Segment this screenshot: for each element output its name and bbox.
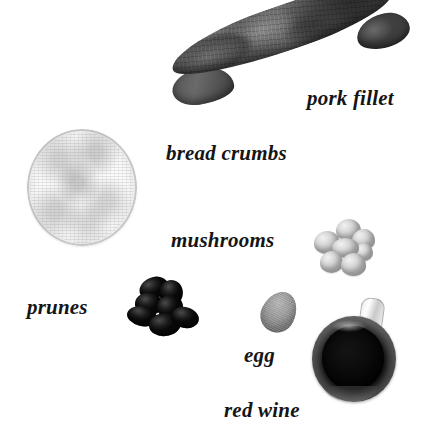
wine-liquid [322, 326, 384, 390]
label-bread-crumbs: bread crumbs [166, 143, 287, 164]
mushrooms-photo [310, 219, 376, 277]
ingredients-plate: pork fillet bread crumbs mushrooms prune… [0, 0, 431, 426]
wine-glass-highlight [332, 320, 366, 332]
wine-glass-foot [324, 386, 378, 402]
label-egg: egg [244, 345, 275, 366]
label-prunes: prunes [27, 297, 88, 318]
bread-crumbs-texture [30, 132, 134, 243]
wine-glass-photo [310, 298, 398, 404]
label-mushrooms: mushrooms [171, 230, 274, 251]
bread-crumbs-photo [27, 129, 137, 246]
prunes-photo [125, 277, 201, 341]
egg-photo [255, 286, 304, 339]
mushroom-cap [320, 251, 343, 273]
label-red-wine: red wine [224, 400, 300, 421]
mushroom-cap [341, 253, 366, 276]
label-pork-fillet: pork fillet [307, 88, 394, 109]
egg-texture [255, 286, 304, 339]
